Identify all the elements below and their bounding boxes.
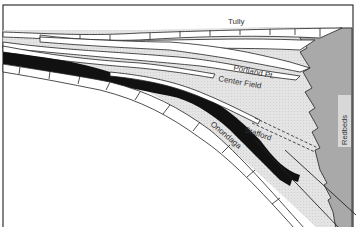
redbeds-label: Redbeds bbox=[340, 115, 349, 145]
cross-section-diagram: Redbeds Tully Portland Pt. Center Field … bbox=[0, 0, 356, 227]
tully-label: Tully bbox=[228, 17, 245, 26]
